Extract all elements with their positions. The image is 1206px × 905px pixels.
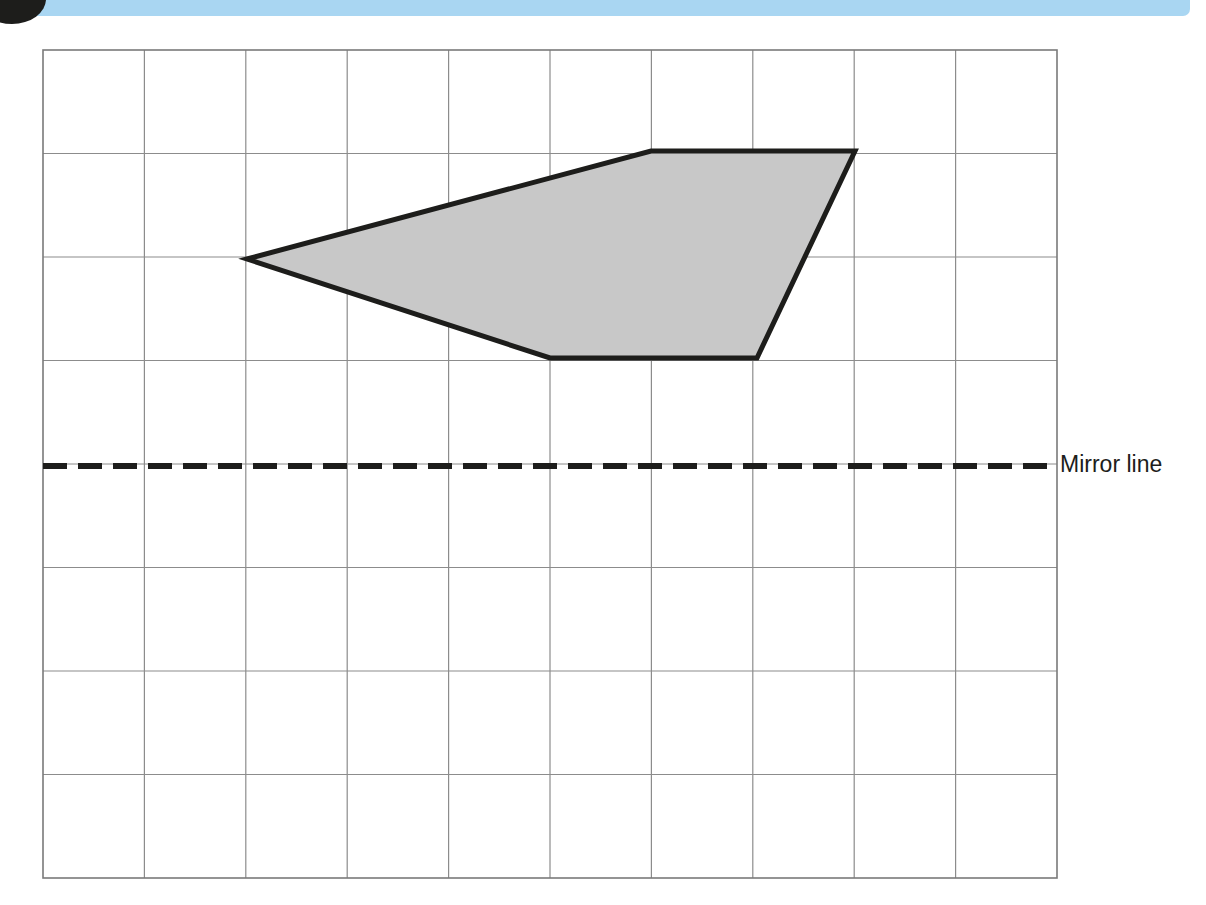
- worksheet-page: Mirror line: [0, 0, 1206, 905]
- reflection-figure: Mirror line: [0, 0, 1206, 905]
- shaded-pentagon: [247, 151, 855, 358]
- figure-svg: [0, 0, 1206, 905]
- mirror-line-label: Mirror line: [1060, 451, 1162, 478]
